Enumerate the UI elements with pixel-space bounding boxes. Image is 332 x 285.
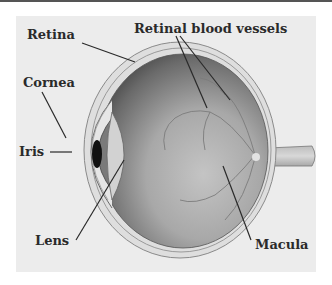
label-retina: Retina <box>27 28 75 41</box>
label-cornea: Cornea <box>23 76 75 89</box>
label-iris: Iris <box>19 145 44 158</box>
label-lens: Lens <box>35 234 69 247</box>
optic-disc <box>252 153 260 161</box>
label-macula: Macula <box>255 238 309 251</box>
retina-leader <box>82 43 135 62</box>
cornea-leader <box>42 92 66 138</box>
label-retinal-blood-vessels: Retinal blood vessels <box>134 22 287 35</box>
pupil <box>92 140 102 168</box>
